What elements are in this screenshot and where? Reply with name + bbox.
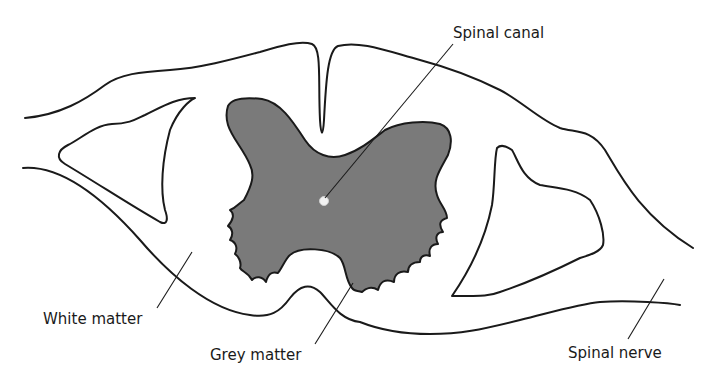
label-spinal-canal: Spinal canal	[453, 26, 544, 41]
label-grey-matter: Grey matter	[210, 348, 301, 363]
leader-spinal-nerve	[628, 279, 664, 339]
label-spinal-nerve: Spinal nerve	[568, 346, 662, 361]
grey-matter-shape	[227, 98, 451, 292]
white-matter-loop-right	[452, 146, 603, 296]
label-white-matter: White matter	[43, 312, 142, 327]
spinal-canal-dot	[320, 197, 329, 206]
leader-white-matter	[157, 252, 192, 308]
spinal-cord-diagram	[0, 0, 712, 389]
white-matter-loop-left	[59, 98, 195, 223]
